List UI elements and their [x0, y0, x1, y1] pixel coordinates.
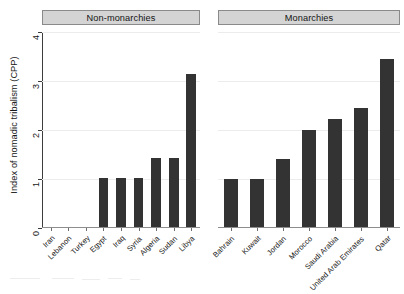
- scan-artifact: [108, 278, 122, 279]
- panel-header-monarchies: Monarchies: [218, 10, 400, 25]
- bar: [169, 158, 179, 227]
- bar-slot: [354, 32, 369, 227]
- x-tick-mark: [121, 228, 122, 231]
- x-tick-mark: [68, 228, 69, 231]
- bar-slot: [276, 32, 291, 227]
- x-tick-mark: [361, 228, 362, 231]
- x-tick-mark: [51, 228, 52, 231]
- bar-group-non-monarchies: [42, 32, 200, 227]
- x-tick-mark: [156, 228, 157, 231]
- x-tick-mark: [174, 228, 175, 231]
- bar-slot: [169, 32, 179, 227]
- bar: [151, 158, 161, 227]
- bar: [276, 159, 291, 227]
- bar-slot: [134, 32, 144, 227]
- panel-title: Non-monarchies: [87, 13, 156, 23]
- bar: [380, 59, 395, 227]
- chart-figure: Index of nomadic tribalism (CPP) 01234 N…: [0, 0, 404, 294]
- plot-area-non-monarchies: [42, 32, 200, 228]
- x-tick-label: Kuwait: [240, 234, 263, 257]
- x-tick-label: Libya: [177, 234, 196, 253]
- y-axis-title: Index of nomadic tribalism (CPP): [9, 25, 19, 225]
- bar-slot: [81, 32, 91, 227]
- x-axis-labels-monarchies: BahrainKuwaitJordanMoroccoSaudi ArabiaUn…: [218, 232, 400, 294]
- bar: [302, 130, 317, 227]
- bar-slot: [186, 32, 196, 227]
- panel-title: Monarchies: [285, 13, 334, 23]
- x-tick-mark: [335, 228, 336, 231]
- panel-header-non-monarchies: Non-monarchies: [42, 10, 200, 25]
- x-tick-mark: [139, 228, 140, 231]
- x-tick-mark: [257, 228, 258, 231]
- x-tick-mark: [191, 228, 192, 231]
- x-tick-mark: [309, 228, 310, 231]
- bar-group-monarchies: [218, 32, 400, 227]
- bar-slot: [46, 32, 56, 227]
- bar-slot: [250, 32, 265, 227]
- y-tick-label: 4: [31, 32, 42, 44]
- x-tick-label: Qatar: [373, 234, 393, 254]
- x-tick-label: Jordan: [265, 234, 288, 257]
- y-tick-label: 3: [31, 81, 42, 93]
- bar-slot: [302, 32, 317, 227]
- bar-slot: [99, 32, 109, 227]
- x-tick-mark: [387, 228, 388, 231]
- x-tick-mark: [103, 228, 104, 231]
- bar: [116, 178, 126, 227]
- x-tick-mark: [231, 228, 232, 231]
- bar: [250, 179, 265, 227]
- x-axis-labels-non-monarchies: IranLebanonTurkeyEgyptIraqSyriaAlgeriaSu…: [42, 232, 200, 294]
- bar-slot: [151, 32, 161, 227]
- bar: [134, 178, 144, 227]
- x-tick-label: Egypt: [88, 234, 108, 254]
- bar: [186, 74, 196, 227]
- y-tick-label: 2: [31, 130, 42, 142]
- bar: [224, 179, 239, 227]
- scan-artifact: [82, 279, 100, 280]
- bar: [328, 119, 343, 227]
- scan-artifact: [52, 278, 74, 279]
- y-axis: 01234: [22, 30, 42, 230]
- scan-artifact: [130, 279, 140, 280]
- bar-slot: [224, 32, 239, 227]
- x-tick-mark: [86, 228, 87, 231]
- x-tick-label: Turkey: [69, 234, 92, 257]
- x-tick-mark: [283, 228, 284, 231]
- bar-slot: [116, 32, 126, 227]
- bar-slot: [380, 32, 395, 227]
- bar: [354, 108, 369, 227]
- y-tick-label: 0: [31, 228, 42, 240]
- bar-slot: [63, 32, 73, 227]
- bar-slot: [328, 32, 343, 227]
- bar: [99, 178, 109, 227]
- x-tick-label: Sudan: [157, 234, 179, 256]
- scan-artifact: [10, 278, 40, 279]
- y-tick-label: 1: [31, 179, 42, 191]
- x-tick-label: Bahrain: [211, 234, 236, 259]
- plot-area-monarchies: [218, 32, 400, 228]
